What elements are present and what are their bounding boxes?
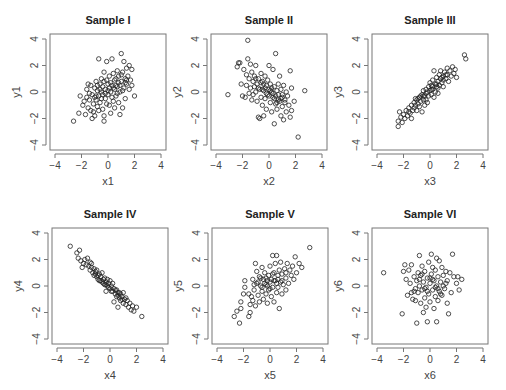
scatter-point [86,82,90,86]
scatter-panel-5: Sample V−4−2024x5−4−2024y5 [172,208,328,381]
scatter-point [300,265,304,269]
scatter-point [270,285,274,289]
scatter-point [97,57,101,61]
scatter-point [273,94,277,98]
y-tick-label: 4 [190,36,201,42]
scatter-point [403,116,407,120]
scatter-point [251,298,255,302]
scatter-point [409,116,413,120]
y-tick-label: −2 [191,306,202,318]
scatter-point [247,77,251,81]
y-tick-label: 4 [351,36,362,42]
y-tick-label: 2 [351,256,362,262]
scatter-point [413,298,417,302]
x-tick-label: −2 [398,354,410,365]
scatter-point [437,259,441,263]
scatter-point [444,281,448,285]
scatter-point [440,265,444,269]
scatter-point [425,320,429,324]
scatter-point [457,288,461,292]
scatter-point [281,118,285,122]
scatter-point [247,292,251,296]
scatter-point [396,124,400,128]
scatter-point [250,98,254,102]
scatter-point [77,111,81,115]
scatter-point [244,73,248,77]
scatter-point [290,264,294,268]
scatter-point [272,122,276,126]
points-group [71,51,136,123]
x-tick-label: 2 [454,160,460,171]
x-tick-label: −2 [76,160,88,171]
scatter-point [102,79,106,83]
scatter-point [450,252,454,256]
scatter-point [76,256,80,260]
x-tick-label: 0 [105,160,111,171]
scatter-point [436,91,440,95]
scatter-point [272,300,276,304]
scatter-point [445,301,449,305]
scatter-point [140,314,144,318]
x-tick-label: 2 [293,160,299,171]
y-tick-label: −2 [31,306,42,318]
scatter-point [102,70,106,74]
scatter-point [288,69,292,73]
scatter-point [408,281,412,285]
scatter-point [421,310,425,314]
scatter-point [449,74,453,78]
scatter-point [436,275,440,279]
scatter-point [251,92,255,96]
scatter-point [269,110,273,114]
scatter-point [82,99,86,103]
scatter-point [430,78,434,82]
scatter-point [104,102,108,106]
scatter-point [405,293,409,297]
x-tick-label: 4 [480,354,486,365]
scatter-grid: Sample I−4−2024x1−4−2024y1Sample II−4−20… [0,0,506,390]
scatter-point [428,281,432,285]
scatter-point [280,292,284,296]
scatter-point [120,106,124,110]
scatter-point [268,264,272,268]
scatter-point [127,63,131,67]
scatter-point [104,289,108,293]
x-tick-label: 0 [107,354,113,365]
x-tick-label: 0 [427,354,433,365]
scatter-point [118,90,122,94]
x-tick-label: 2 [132,160,138,171]
scatter-point [426,292,430,296]
scatter-point [276,82,280,86]
scatter-point [292,99,296,103]
scatter-point [417,104,421,108]
y-tick-label: 0 [351,283,362,289]
scatter-point [450,65,454,69]
scatter-point [454,281,458,285]
scatter-point [433,90,437,94]
scatter-point [273,51,277,55]
scatter-point [254,77,258,81]
scatter-point [285,94,289,98]
scatter-point [460,277,464,281]
panel-title: Sample IV [84,208,137,220]
scatter-point [122,86,126,90]
scatter-point [404,277,408,281]
y-tick-label: 2 [190,62,201,68]
y-tick-label: 2 [31,256,42,262]
scatter-point [284,276,288,280]
scatter-point [240,94,244,98]
scatter-point [246,38,250,42]
scatter-point [116,305,120,309]
scatter-point [403,263,407,267]
scatter-point [268,100,272,104]
scatter-point [423,269,427,273]
scatter-point [296,135,300,139]
scatter-point [91,102,95,106]
scatter-point [264,107,268,111]
y-axis-label: y1 [10,86,22,98]
scatter-point [415,279,419,283]
x-tick-label: 4 [320,354,326,365]
scatter-point [416,102,420,106]
scatter-point [437,289,441,293]
scatter-point [253,261,257,265]
scatter-point [446,79,450,83]
